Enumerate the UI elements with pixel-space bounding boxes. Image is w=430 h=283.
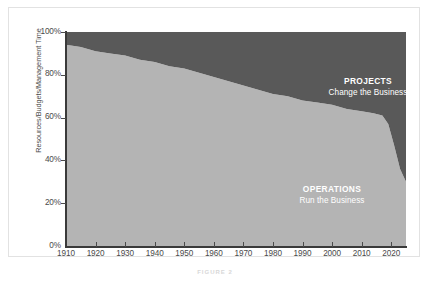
x-tick-mark — [214, 242, 215, 247]
y-tick-mark — [61, 118, 66, 119]
y-tick-mark — [61, 203, 66, 204]
chart-plot-area: PROJECTS Change the Business OPERATIONS … — [66, 32, 406, 246]
y-tick-label: 40% — [27, 155, 61, 164]
x-tick-mark — [332, 242, 333, 247]
y-tick-label: 80% — [27, 69, 61, 78]
x-tick-mark — [125, 242, 126, 247]
x-tick-mark — [155, 242, 156, 247]
annotation-operations-title: OPERATIONS — [252, 184, 406, 194]
annotation-operations-subtitle: Run the Business — [252, 196, 406, 205]
x-axis-line — [65, 246, 407, 248]
x-tick-mark — [96, 242, 97, 247]
y-tick-mark — [61, 75, 66, 76]
x-tick-mark — [184, 242, 185, 247]
annotation-projects-title: PROJECTS — [288, 76, 406, 86]
y-tick-label: 20% — [27, 198, 61, 207]
y-tick-label: 100% — [27, 27, 61, 36]
stacked-area-svg — [66, 32, 406, 246]
annotation-projects: PROJECTS Change the Business — [288, 76, 406, 97]
x-tick-label: 2020 — [371, 249, 411, 258]
figure-caption: FIGURE 2 — [0, 269, 430, 275]
annotation-operations: OPERATIONS Run the Business — [252, 184, 406, 205]
y-axis-line — [65, 31, 67, 247]
x-tick-mark — [391, 242, 392, 247]
y-tick-mark — [61, 160, 66, 161]
x-tick-mark — [273, 242, 274, 247]
y-tick-mark — [61, 32, 66, 33]
figure-frame: PROJECTS Change the Business OPERATIONS … — [8, 7, 420, 257]
y-axis-title: Resources/Budgets/Management Time — [34, 6, 43, 176]
annotation-projects-subtitle: Change the Business — [288, 88, 406, 97]
y-tick-label: 60% — [27, 112, 61, 121]
x-tick-mark — [303, 242, 304, 247]
x-tick-mark — [362, 242, 363, 247]
x-tick-mark — [243, 242, 244, 247]
